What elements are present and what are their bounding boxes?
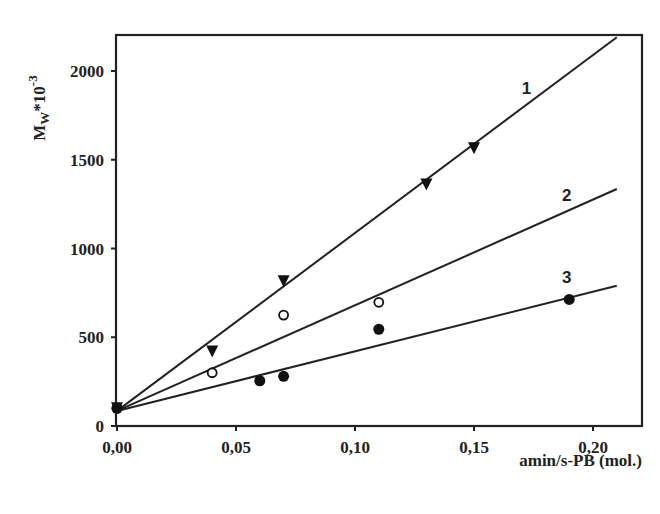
- open-circle-marker: [374, 298, 383, 307]
- y-title-sub: W: [37, 112, 52, 125]
- filled-circle-marker: [564, 294, 575, 305]
- series-label-2: 2: [562, 186, 571, 205]
- x-tick-label: 0,05: [221, 438, 251, 457]
- x-tick-label: 0,10: [340, 438, 370, 457]
- fit-line-series-1: [117, 37, 617, 411]
- y-title-main: M: [30, 125, 49, 141]
- open-circle-marker: [208, 368, 217, 377]
- series-label-3: 3: [562, 268, 571, 287]
- y-title-sup: -3: [25, 75, 40, 86]
- plot-border: [116, 35, 642, 426]
- fit-line-series-2: [117, 189, 617, 411]
- series-label-1: 1: [522, 79, 531, 98]
- y-axis-title: MW*10-3: [25, 75, 52, 141]
- fit-lines: [117, 37, 617, 411]
- data-points: [111, 142, 575, 414]
- filled-circle-marker: [373, 324, 384, 335]
- open-circle-marker: [279, 311, 288, 320]
- triangle-marker: [278, 275, 290, 287]
- chart: 0500100015002000 0,000,050,100,150,20 12…: [0, 0, 660, 514]
- fit-line-series-3: [117, 286, 617, 411]
- x-tick-label: 0,00: [102, 438, 132, 457]
- series-labels: 123: [522, 79, 572, 287]
- filled-circle-marker: [254, 375, 265, 386]
- y-tick-label: 1500: [70, 151, 104, 170]
- y-tick-label: 0: [96, 417, 105, 436]
- filled-circle-marker: [112, 403, 123, 414]
- y-tick-label: 1000: [70, 240, 104, 259]
- x-tick-label: 0,15: [459, 438, 489, 457]
- y-axis: 0500100015002000: [70, 62, 116, 436]
- triangle-marker: [206, 345, 218, 357]
- y-tick-label: 500: [79, 328, 105, 347]
- triangle-marker: [420, 179, 432, 191]
- filled-circle-marker: [278, 371, 289, 382]
- svg-text:MW*10-3: MW*10-3: [25, 75, 52, 141]
- y-tick-label: 2000: [70, 62, 104, 81]
- plot-frame: [116, 35, 642, 426]
- y-title-rest: *10: [30, 86, 49, 112]
- x-axis-title: amin/s-PB (mol.): [519, 451, 642, 470]
